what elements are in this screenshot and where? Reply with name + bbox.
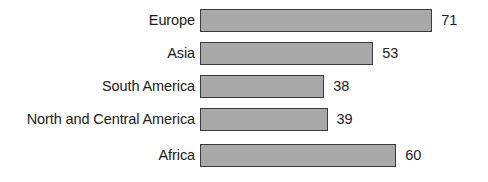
bar-track: 60	[200, 143, 421, 167]
bar-value-label: 38	[333, 74, 349, 98]
bar-row: Africa 60	[0, 143, 488, 167]
bar-row: Europe 71	[0, 8, 488, 32]
category-label: Asia	[0, 41, 195, 65]
bar	[200, 144, 396, 167]
bar	[200, 9, 432, 32]
bar-row: North and Central America 39	[0, 107, 488, 131]
category-label: South America	[0, 74, 195, 98]
bar-value-label: 53	[382, 41, 398, 65]
bar-chart: Europe 71 Asia 53 South America 38 North…	[0, 0, 488, 182]
bar	[200, 75, 324, 98]
bar	[200, 108, 328, 131]
bar-value-label: 71	[441, 8, 457, 32]
category-label: Africa	[0, 143, 195, 167]
bar	[200, 42, 373, 65]
bar-row: South America 38	[0, 74, 488, 98]
bar-track: 39	[200, 107, 353, 131]
bar-track: 71	[200, 8, 457, 32]
bar-value-label: 60	[405, 143, 421, 167]
bar-track: 53	[200, 41, 398, 65]
bar-value-label: 39	[337, 107, 353, 131]
category-label: North and Central America	[0, 107, 195, 131]
bar-row: Asia 53	[0, 41, 488, 65]
bar-track: 38	[200, 74, 349, 98]
category-label: Europe	[0, 8, 195, 32]
